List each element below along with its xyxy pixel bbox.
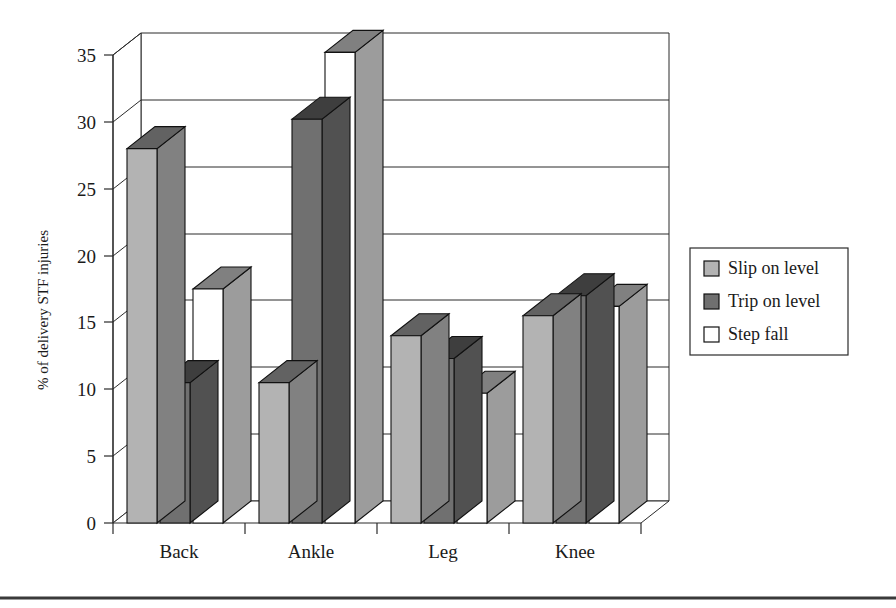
bar-front-face (523, 316, 553, 523)
bar-side-face (289, 361, 317, 523)
bar-side-face (355, 30, 383, 523)
x-tick-label-leg: Leg (428, 541, 458, 562)
figure-container: 0 5 10 15 20 25 30 35 % of delivery STF … (0, 0, 896, 608)
bar-back-slip-on-level (127, 127, 185, 523)
bar-front-face (127, 149, 157, 523)
legend-label-trip-on-level: Trip on level (728, 291, 820, 311)
bar-side-face (586, 274, 614, 523)
y-axis-title: % of delivery STF injuries (35, 230, 51, 390)
y-tick-label: 20 (77, 246, 96, 267)
legend-label-step-fall: Step fall (728, 324, 789, 344)
bar-side-face (553, 294, 581, 523)
bar-side-face (190, 361, 218, 523)
bar-side-face (223, 267, 251, 523)
y-tick-label: 0 (87, 513, 97, 534)
bar-side-face (619, 284, 647, 523)
y-tick-label: 5 (87, 446, 97, 467)
bar-front-face (391, 336, 421, 523)
bar-leg-slip-on-level (391, 314, 449, 523)
y-tick-label: 25 (77, 179, 96, 200)
bar-side-face (322, 97, 350, 523)
chart-legend: Slip on level Trip on level Step fall (690, 248, 848, 355)
bar-side-face (421, 314, 449, 523)
bar-chart: 0 5 10 15 20 25 30 35 % of delivery STF … (0, 0, 896, 608)
y-tick-label: 10 (77, 379, 96, 400)
bar-side-face (157, 127, 185, 523)
y-tick-label: 30 (77, 112, 96, 133)
x-tick-label-knee: Knee (555, 541, 595, 562)
bar-side-face (454, 337, 482, 523)
x-tick-label-ankle: Ankle (288, 541, 334, 562)
bar-front-face (259, 383, 289, 523)
legend-label-slip-on-level: Slip on level (728, 258, 819, 278)
legend-swatch-trip-on-level (704, 294, 719, 309)
y-tick-label: 15 (77, 312, 96, 333)
bar-side-face (487, 371, 515, 523)
bar-knee-slip-on-level (523, 294, 581, 523)
legend-swatch-step-fall (704, 327, 719, 342)
x-tick-label-back: Back (159, 541, 199, 562)
y-tick-label: 35 (77, 45, 96, 66)
legend-swatch-slip-on-level (704, 261, 719, 276)
bar-ankle-slip-on-level (259, 361, 317, 523)
